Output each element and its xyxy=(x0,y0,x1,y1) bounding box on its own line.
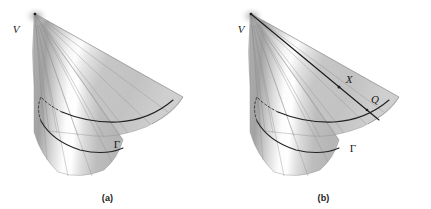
label-directrix-gamma: Γ xyxy=(114,138,120,150)
panel-b-caption: (b) xyxy=(216,193,431,203)
panel-a-caption: (a) xyxy=(0,193,215,203)
label-directrix-gamma: Γ xyxy=(350,142,356,154)
panel-b-drawing: V X Q Γ xyxy=(216,0,431,209)
panel-a-drawing: V Γ xyxy=(0,0,215,209)
label-vertex-v: V xyxy=(13,23,21,35)
label-vertex-v: V xyxy=(238,23,246,35)
label-point-x: X xyxy=(345,73,354,85)
point-marker-x xyxy=(338,86,341,89)
vertex-point xyxy=(34,13,37,16)
figure-root: V Γ (a) xyxy=(0,0,431,209)
label-point-q: Q xyxy=(371,93,379,105)
point-marker-q xyxy=(366,109,369,112)
vertex-point xyxy=(250,13,253,16)
figure-panel-a: V Γ (a) xyxy=(0,0,215,209)
figure-panel-b: V X Q Γ (b) xyxy=(216,0,431,209)
